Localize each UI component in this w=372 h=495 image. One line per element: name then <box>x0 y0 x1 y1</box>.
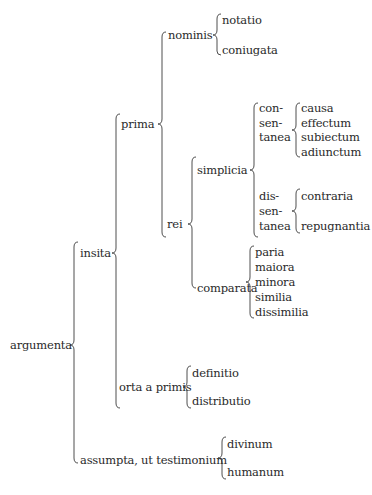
brackets-layer <box>0 0 372 495</box>
node-argumenta: argumenta <box>10 338 72 352</box>
bracket-rei <box>188 157 196 288</box>
leaf-minora: minora <box>255 275 295 289</box>
leaf-humanum: humanum <box>227 465 284 479</box>
leaf-repugnantia: repugnantia <box>301 219 370 233</box>
leaf-notatio: notatio <box>222 13 262 27</box>
node-prima: prima <box>121 117 154 131</box>
leaf-effectum: effectum <box>301 116 351 130</box>
node-dissentanea-line-1: dis- <box>259 189 279 203</box>
leaf-adiunctum: adiunctum <box>301 145 361 159</box>
leaf-distributio: distributio <box>192 394 251 408</box>
node-consentanea-line-3: tanea <box>259 130 291 144</box>
leaf-causa: causa <box>301 101 333 115</box>
bracket-consentanea <box>292 103 300 157</box>
leaf-maiora: maiora <box>255 260 295 274</box>
leaf-coniugata: coniugata <box>222 43 278 57</box>
bracket-prima <box>158 32 166 237</box>
node-insita: insita <box>80 246 111 260</box>
argumenta-diagram: argumenta insita assumpta, ut testimoniu… <box>0 0 372 495</box>
node-consentanea-line-2: sen- <box>259 116 282 130</box>
node-rei: rei <box>167 217 182 231</box>
node-assumpta: assumpta, ut testimonium <box>80 453 227 467</box>
bracket-dissentanea <box>292 189 300 233</box>
leaf-contraria: contraria <box>301 189 353 203</box>
leaf-dissimilia: dissimilia <box>255 305 308 319</box>
node-simplicia: simplicia <box>197 163 247 177</box>
node-nominis: nominis <box>168 28 213 42</box>
leaf-subiectum: subiectum <box>301 130 360 144</box>
leaf-paria: paria <box>255 245 284 259</box>
leaf-similia: similia <box>255 290 292 304</box>
bracket-nominis <box>213 14 221 55</box>
bracket-insita <box>112 114 120 408</box>
node-dissentanea-line-2: sen- <box>259 204 282 218</box>
bracket-argumenta <box>70 242 78 463</box>
leaf-divinum: divinum <box>227 437 273 451</box>
node-comparata: comparata <box>197 281 258 295</box>
node-orta-a-primis: orta a primis <box>119 380 192 394</box>
bracket-simplicia <box>250 103 258 237</box>
leaf-definitio: definitio <box>192 366 239 380</box>
node-consentanea-line-1: con- <box>259 101 283 115</box>
node-dissentanea-line-3: tanea <box>259 219 291 233</box>
